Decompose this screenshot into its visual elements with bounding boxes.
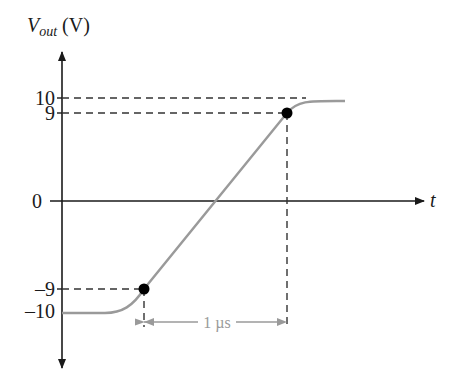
x-axis-label: t (430, 189, 436, 211)
point-neg9 (139, 284, 150, 295)
tick-label-0: 0 (32, 190, 42, 212)
duration-label: 1 µs (203, 314, 230, 332)
y-tick-labels: 10 9 0 –9 –10 (24, 87, 55, 322)
y-axis-unit: (V) (62, 14, 90, 37)
tick-label-neg10: –10 (24, 300, 55, 322)
y-axis-subscript: out (39, 24, 58, 39)
vout-curve (62, 101, 345, 313)
duration-annotation: 1 µs (144, 314, 287, 332)
tick-label-neg9: –9 (34, 278, 55, 300)
vout-ramp-diagram: 1 µs Vout(V) 10 9 0 –9 –10 t (0, 0, 461, 384)
tick-label-9: 9 (45, 102, 55, 124)
y-axis-title: Vout(V) (27, 14, 90, 39)
point-9 (282, 108, 293, 119)
guide-lines (62, 98, 306, 327)
